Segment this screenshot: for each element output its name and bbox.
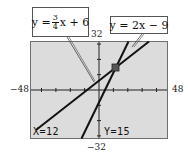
equation-label-line-1: y = 3 4 x + 6 xyxy=(32,7,89,37)
leader-line-2b xyxy=(134,34,144,47)
equation-label-line-2: y = 2x − 9 xyxy=(110,16,168,34)
eq1-rhs: x + 6 xyxy=(60,16,89,29)
xmin-label: −48 xyxy=(10,84,29,94)
ymin-label: −32 xyxy=(87,142,106,152)
y-readout: Y=15 xyxy=(104,126,130,137)
x-readout: X=12 xyxy=(33,126,59,137)
eq1-lhs: y = xyxy=(32,16,51,29)
leader-line-1b xyxy=(69,37,95,81)
fraction-three-quarters: 3 4 xyxy=(52,14,59,31)
leader-line-2 xyxy=(132,34,142,47)
intersection-marker xyxy=(112,64,119,71)
ymax-label: 32 xyxy=(91,29,102,39)
xmax-label: 48 xyxy=(172,84,183,94)
leader-line-1 xyxy=(67,37,94,82)
